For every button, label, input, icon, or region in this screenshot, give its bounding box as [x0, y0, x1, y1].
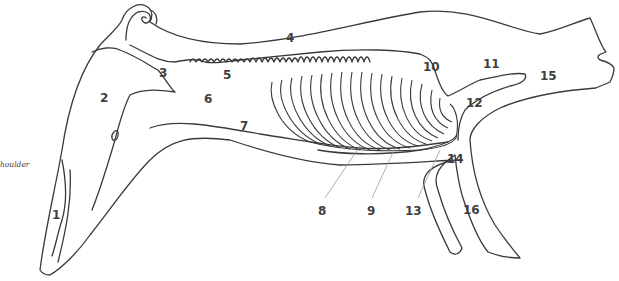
- spine: [130, 45, 526, 140]
- label-3: 3: [159, 67, 167, 79]
- vertebrae: [190, 57, 370, 62]
- rib-cage: [271, 72, 457, 151]
- label-10: 10: [423, 61, 440, 73]
- tail-curl: [126, 11, 150, 40]
- label-6: 6: [204, 93, 212, 105]
- label-7: 7: [240, 120, 248, 132]
- label-5: 5: [223, 69, 231, 81]
- label-8: 8: [318, 205, 326, 217]
- label-13: 13: [405, 205, 422, 217]
- label-1: 1: [52, 209, 60, 221]
- leader-line-9: [372, 148, 395, 198]
- pig-skeleton-diagram: [0, 0, 619, 281]
- caption-fragment: houlder: [0, 160, 29, 169]
- label-2: 2: [100, 92, 108, 104]
- label-12: 12: [466, 97, 483, 109]
- label-15: 15: [540, 70, 557, 82]
- label-14: 14: [447, 153, 464, 165]
- label-11: 11: [483, 58, 500, 70]
- label-9: 9: [367, 205, 375, 217]
- label-4: 4: [286, 32, 294, 44]
- label-16: 16: [463, 204, 480, 216]
- leader-line-8: [325, 146, 360, 198]
